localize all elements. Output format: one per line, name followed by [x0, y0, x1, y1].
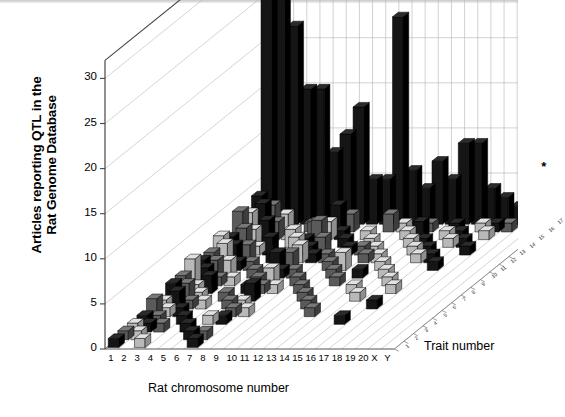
z-tick-14: 14 [528, 241, 536, 249]
y-tick-25: 25 [71, 116, 97, 128]
x-tick-8: 8 [200, 352, 205, 363]
x-tick-20: 20 [358, 352, 369, 363]
y-tick-20: 20 [71, 161, 97, 173]
y-tick-5: 5 [71, 296, 97, 308]
x-tick-9: 9 [213, 352, 218, 363]
x-tick-3: 3 [134, 352, 139, 363]
x-tick-11: 11 [240, 352, 250, 363]
z-tick-15: 15 [537, 233, 545, 241]
x-tick-15: 15 [292, 352, 303, 363]
y-axis-title: Articles reporting QTL in the Rat Genome… [29, 35, 59, 295]
z-tick-16: 16 [547, 225, 555, 233]
y-tick-30: 30 [71, 70, 97, 82]
x-tick-6: 6 [174, 352, 179, 363]
asterisk-annotation: * [541, 162, 546, 172]
x-tick-19: 19 [345, 352, 356, 363]
y-tick-15: 15 [71, 206, 97, 218]
x-tick-12: 12 [253, 352, 264, 363]
x-tick-14: 14 [279, 352, 290, 363]
x-tick-18: 18 [332, 352, 343, 363]
y-axis-title-line2: Rat Genome Database [44, 95, 59, 235]
x-tick-1: 1 [108, 352, 113, 363]
x-tick-Y: Y [384, 352, 390, 363]
z-tick-13: 13 [518, 248, 526, 256]
x-tick-4: 4 [148, 352, 153, 363]
x-axis-title: Rat chromosome number [148, 381, 289, 395]
y-axis-title-line1: Articles reporting QTL in the [29, 77, 44, 254]
y-tick-0: 0 [71, 341, 97, 353]
x-tick-17: 17 [319, 352, 330, 363]
z-tick-17: 17 [557, 218, 565, 226]
x-tick-7: 7 [187, 352, 192, 363]
x-tick-5: 5 [161, 352, 166, 363]
x-tick-16: 16 [305, 352, 316, 363]
x-tick-13: 13 [266, 352, 277, 363]
x-tick-X: X [371, 352, 377, 363]
x-tick-10: 10 [227, 352, 238, 363]
y-tick-10: 10 [71, 251, 97, 263]
z-axis-title: Trait number [424, 339, 494, 353]
x-tick-2: 2 [121, 352, 126, 363]
